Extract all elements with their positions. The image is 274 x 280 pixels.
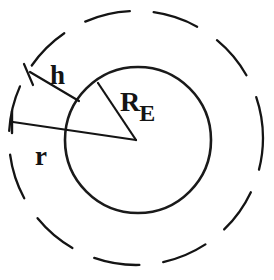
radius-line-r xyxy=(12,111,136,140)
label-re-base: R xyxy=(120,86,140,117)
label-r: r xyxy=(35,143,47,170)
tick-mark-h-end-icon xyxy=(24,64,33,85)
figure-canvas: h r RE xyxy=(0,0,274,280)
label-h: h xyxy=(50,62,65,89)
radius-line-r-segment xyxy=(13,122,136,140)
outer-dashed-circle-path xyxy=(9,11,263,265)
label-re-subscript: E xyxy=(139,100,155,126)
label-re: RE xyxy=(120,88,156,116)
diagram-svg xyxy=(0,0,274,280)
outer-dashed-circle xyxy=(9,11,263,265)
